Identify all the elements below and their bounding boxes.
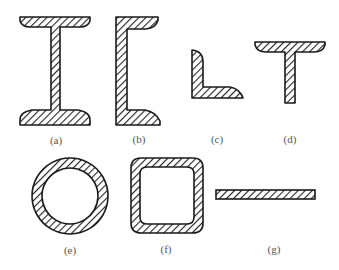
square-tube-section <box>131 158 203 233</box>
label-c: (c) <box>211 133 223 145</box>
tee-section <box>255 42 325 103</box>
label-d: (d) <box>284 133 297 145</box>
label-b: (b) <box>133 133 146 145</box>
flat-plate-section <box>216 190 315 199</box>
label-g: (g) <box>268 243 281 255</box>
angle-section <box>192 50 243 98</box>
label-f: (f) <box>161 243 172 255</box>
circular-tube-section <box>32 158 108 234</box>
structural-sections-figure: (a) (b) (c) (d) (e) (f) (g) <box>0 0 339 270</box>
channel-section <box>116 17 160 125</box>
label-e: (e) <box>64 244 76 256</box>
i-beam-section <box>20 17 90 125</box>
label-a: (a) <box>50 134 62 146</box>
